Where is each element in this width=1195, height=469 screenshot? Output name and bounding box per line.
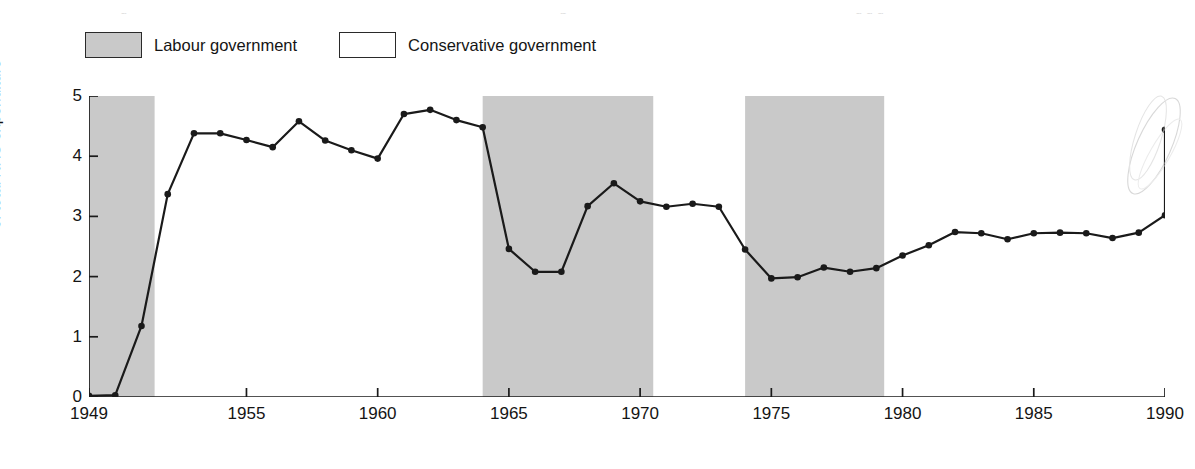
data-point-1955 [243, 137, 250, 144]
data-point-1985 [1030, 230, 1037, 237]
data-point-1971 [663, 203, 670, 210]
data-point-1964 [479, 124, 486, 131]
x-tick-label-1955: 1955 [228, 404, 266, 424]
plot-area [89, 96, 1165, 397]
legend-item-conservative: Conservative government [339, 32, 596, 58]
chart-legend: Labour government Conservative governmen… [85, 30, 596, 60]
y-axis-title-line-2: of total NHS expenditure [0, 40, 4, 249]
data-point-1960 [374, 155, 381, 162]
data-point-1981 [926, 242, 933, 249]
legend-label-conservative: Conservative government [408, 37, 596, 54]
data-point-1958 [322, 137, 329, 144]
data-point-1990 [1162, 126, 1165, 133]
y-tick-label-1: 1 [73, 327, 82, 347]
x-tick-label-1970: 1970 [621, 404, 659, 424]
x-tick-label-1949: 1949 [70, 404, 108, 424]
top-bleed-fragment-2: p [560, 9, 567, 14]
x-tick-label-1975: 1975 [752, 404, 790, 424]
chart-figure: g p g g g Labour government Conservative… [0, 0, 1195, 469]
y-tick-label-4: 4 [73, 146, 82, 166]
shaded-band-labour-1 [89, 96, 155, 397]
x-tick-label-1990: 1990 [1146, 404, 1184, 424]
data-point-1956 [269, 144, 276, 151]
shaded-band-labour-3 [745, 96, 884, 397]
data-point-1969 [611, 180, 618, 187]
data-point-1977 [821, 264, 828, 271]
data-point-1976 [794, 274, 801, 281]
data-point-1951 [138, 323, 145, 330]
x-tick-label-1965: 1965 [490, 404, 528, 424]
y-axis-tick-labels: 012345 [60, 96, 82, 397]
x-axis-tick-labels: 194919551960196519701975198019851990 [89, 404, 1165, 428]
data-point-1968 [584, 203, 591, 210]
y-tick-label-2: 2 [73, 267, 82, 287]
data-point-1978 [847, 268, 854, 275]
legend-swatch-labour-icon [85, 32, 142, 58]
data-point-1972 [689, 200, 696, 207]
top-text-bleed: g p g g g [0, 0, 1195, 14]
data-point-1962 [427, 107, 434, 114]
top-bleed-fragment-1: g [120, 9, 127, 14]
y-axis-title: patient charges as percentage of total N… [0, 0, 16, 294]
data-point-1970 [637, 198, 644, 205]
data-point-1966 [532, 268, 539, 275]
legend-swatch-conservative-icon [339, 32, 396, 58]
data-point-1987 [1083, 230, 1090, 237]
data-point-1982 [952, 229, 959, 236]
data-point-1967 [558, 268, 565, 275]
y-tick-label-3: 3 [73, 206, 82, 226]
data-point-1959 [348, 147, 355, 154]
data-point-1988 [1109, 235, 1116, 242]
x-tick-label-1960: 1960 [359, 404, 397, 424]
data-point-1980 [899, 252, 906, 259]
x-tick-label-1980: 1980 [884, 404, 922, 424]
data-point-1952 [164, 191, 171, 198]
legend-label-labour: Labour government [154, 37, 297, 54]
plot-svg [89, 96, 1165, 397]
data-point-1963 [453, 117, 460, 124]
data-point-1965 [506, 246, 513, 253]
data-point-1954 [217, 130, 224, 137]
data-point-1974 [742, 246, 749, 253]
data-point-1984 [1004, 236, 1011, 243]
data-point-1953 [191, 130, 198, 137]
data-point-1989 [1135, 229, 1142, 236]
top-bleed-fragment-3: g g g [855, 9, 884, 14]
legend-item-labour: Labour government [85, 32, 297, 58]
data-point-1961 [401, 111, 408, 118]
x-tick-label-1985: 1985 [1015, 404, 1053, 424]
data-point-1973 [716, 203, 723, 210]
data-point-1957 [296, 118, 303, 125]
data-point-1983 [978, 230, 985, 237]
data-point-1979 [873, 265, 880, 272]
y-tick-label-5: 5 [73, 86, 82, 106]
data-point-1975 [768, 275, 775, 282]
data-point-1986 [1057, 229, 1064, 236]
